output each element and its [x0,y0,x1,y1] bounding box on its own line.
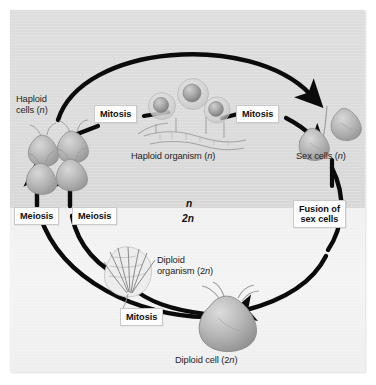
label-sex-cells-pre: Sex cells ( [296,151,338,161]
label-diploid-organism-line2-post: ) [210,266,213,276]
label-haploid-cells-line2-pre: cells ( [16,105,40,115]
diagram-artwork [10,10,365,372]
illustration-panel: Haploid cells (n) Haploid organism (n) S… [10,10,365,372]
label-sex-cells: Sex cells (n) [296,151,346,162]
process-box-mitosis-to-diploid-organism[interactable]: Mitosis [120,308,163,326]
label-diploid-cell: Diploid cell (2n) [175,355,237,366]
fusion-line-1: Fusion of [299,204,340,214]
label-haploid-cells-line1: Haploid [16,94,47,104]
label-diploid-cell-post: ) [234,355,237,365]
label-diploid-organism-line1: Diploid [157,255,185,265]
label-haploid-cells-line2-post: ) [45,105,48,115]
label-diploid-organism: Diploid organism (2n) [157,255,213,278]
ploidy-marker-n: n [186,198,192,209]
label-haploid-organism: Haploid organism (n) [131,151,215,162]
diploid-cell-illustration [199,282,259,352]
fusion-line-2: sex cells [301,214,339,224]
process-box-mitosis-to-haploid-organism[interactable]: Mitosis [94,105,137,123]
process-box-meiosis-right[interactable]: Meiosis [72,207,117,225]
arc-sex-cells-to-diploid-cell [246,168,341,310]
life-cycle-figure: Haploid cells (n) Haploid organism (n) S… [0,0,376,385]
label-diploid-organism-line2-pre: organism (2 [157,266,205,276]
label-haploid-organism-pre: Haploid organism ( [131,151,207,161]
label-haploid-organism-post: ) [212,151,215,161]
label-diploid-cell-pre: Diploid cell (2 [175,355,229,365]
label-haploid-cells: Haploid cells (n) [16,94,48,117]
process-box-mitosis-to-sex-cells[interactable]: Mitosis [236,105,279,123]
process-box-fusion-of-sex-cells[interactable]: Fusion of sex cells [293,200,346,228]
label-sex-cells-post: ) [343,151,346,161]
ploidy-marker-2n: 2n [182,213,194,224]
process-box-meiosis-left[interactable]: Meiosis [14,207,59,225]
